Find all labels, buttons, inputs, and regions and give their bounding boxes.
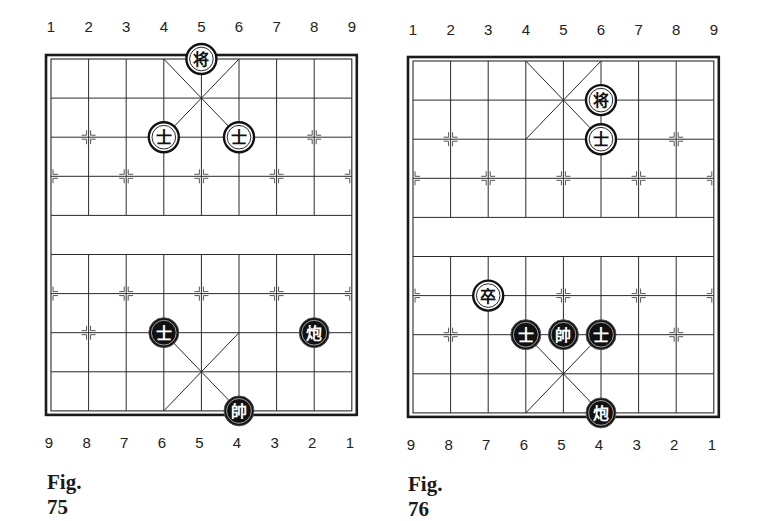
piece-red-cannon[interactable]: 炮 [586,398,616,428]
piece-red-general[interactable]: 帥 [548,320,578,350]
piece-glyph: 将 [593,91,609,110]
piece-glyph: 士 [593,326,609,345]
piece-glyph: 炮 [593,404,609,423]
piece-glyph: 卒 [480,287,496,306]
piece-black-general[interactable]: 将 [586,85,616,115]
piece-red-advisor[interactable]: 士 [511,320,541,350]
piece-glyph: 士 [593,130,609,149]
piece-black-advisor[interactable]: 士 [586,124,616,154]
piece-black-soldier[interactable]: 卒 [473,281,503,311]
grid-lines [413,61,714,413]
piece-glyph: 士 [518,326,534,345]
xiangqi-board: 将士卒士帥士炮 [0,0,759,521]
piece-red-advisor[interactable]: 士 [586,320,616,350]
piece-glyph: 帥 [555,326,571,345]
